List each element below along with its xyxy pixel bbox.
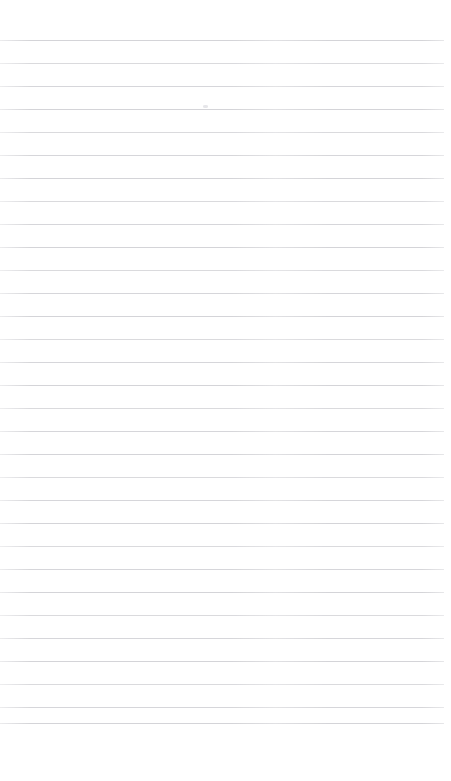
ruled-line [0, 224, 444, 225]
ruled-line [0, 362, 444, 363]
ruled-line [0, 339, 444, 340]
ruled-line [0, 408, 444, 409]
ruled-line [0, 132, 444, 133]
faint-smudge [203, 105, 208, 108]
ruled-line [0, 293, 444, 294]
ruled-line [0, 661, 444, 662]
ruled-line [0, 178, 444, 179]
ruled-line [0, 523, 444, 524]
ruled-line [0, 592, 444, 593]
ruled-line [0, 431, 444, 432]
ruled-line [0, 569, 444, 570]
ruled-line [0, 247, 444, 248]
ruled-lines-layer [0, 0, 451, 781]
ruled-line [0, 155, 444, 156]
ruled-line [0, 707, 444, 708]
ruled-line [0, 201, 444, 202]
ruled-line [0, 270, 444, 271]
ruled-line [0, 63, 444, 64]
ruled-line [0, 454, 444, 455]
ruled-line [0, 546, 444, 547]
ruled-line [0, 684, 444, 685]
ruled-line [0, 638, 444, 639]
notebook-page: Ruled Notebook Page [0, 0, 451, 781]
ruled-line [0, 86, 444, 87]
ruled-line [0, 385, 444, 386]
ruled-line [0, 500, 444, 501]
ruled-line [0, 109, 444, 110]
ruled-line [0, 477, 444, 478]
ruled-line [0, 615, 444, 616]
bottom-margin [0, 723, 451, 781]
ruled-line [0, 316, 444, 317]
ruled-line [0, 40, 444, 41]
